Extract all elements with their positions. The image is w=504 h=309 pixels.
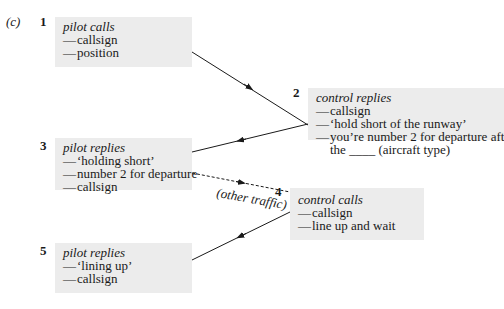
list-item: —callsign bbox=[63, 272, 184, 285]
step-box-1: pilot calls —callsign —position bbox=[55, 17, 192, 67]
list-item: —callsign bbox=[63, 180, 184, 193]
step-number-2: 2 bbox=[293, 85, 300, 101]
list-item: —line up and wait bbox=[298, 219, 416, 232]
step-number-1: 1 bbox=[40, 14, 47, 30]
arrow-1-to-2 bbox=[192, 52, 308, 125]
arrow-2-to-3 bbox=[192, 124, 308, 152]
step-box-4: control calls —callsign —line up and wai… bbox=[290, 188, 424, 240]
list-item-continuation: the ____ (aircraft type) bbox=[316, 143, 496, 156]
step-number-5: 5 bbox=[40, 243, 47, 259]
step-box-3: pilot replies —‘holding short’ —number 2… bbox=[55, 138, 192, 190]
step-box-5: pilot replies —‘lining up’ —callsign bbox=[55, 243, 192, 293]
arrow-4-to-5 bbox=[192, 212, 290, 260]
step-number-4: 4 bbox=[275, 184, 282, 200]
step-box-2: control replies —callsign —‘hold short o… bbox=[308, 88, 504, 140]
step-number-3: 3 bbox=[40, 138, 47, 154]
list-item: —position bbox=[63, 46, 184, 59]
